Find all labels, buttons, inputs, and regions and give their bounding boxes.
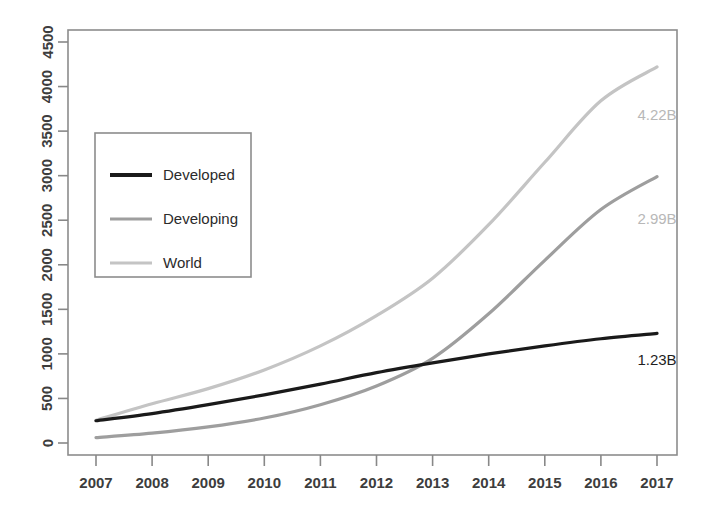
chart-container: 050010001500200025003000350040004500 200… bbox=[0, 0, 712, 519]
x-axis-tick-label: 2008 bbox=[135, 474, 168, 491]
y-axis-tick-label: 4000 bbox=[39, 70, 56, 103]
y-axis-tick-label: 3500 bbox=[39, 114, 56, 147]
x-axis-tick-label: 2007 bbox=[79, 474, 112, 491]
data-annotations: 4.22B2.99B1.23B bbox=[637, 106, 676, 368]
x-axis-tick-label: 2009 bbox=[192, 474, 225, 491]
y-axis-tick-label: 1500 bbox=[39, 293, 56, 326]
y-axis-tick-label: 3000 bbox=[39, 159, 56, 192]
x-axis: 2007200820092010201120122013201420152016… bbox=[79, 455, 673, 491]
y-axis-tick-label: 2000 bbox=[39, 248, 56, 281]
x-axis-tick-label: 2013 bbox=[416, 474, 449, 491]
legend[interactable]: DevelopedDevelopingWorld bbox=[95, 133, 251, 277]
y-axis-tick-label: 2500 bbox=[39, 204, 56, 237]
x-axis-tick-label: 2015 bbox=[528, 474, 561, 491]
y-axis-tick-label: 0 bbox=[39, 439, 56, 447]
x-axis-tick-label: 2014 bbox=[472, 474, 506, 491]
x-axis-tick-label: 2016 bbox=[584, 474, 617, 491]
line-chart: 050010001500200025003000350040004500 200… bbox=[0, 0, 712, 519]
x-axis-tick-label: 2010 bbox=[248, 474, 281, 491]
legend-label-world[interactable]: World bbox=[163, 254, 202, 271]
legend-label-developed[interactable]: Developed bbox=[163, 166, 235, 183]
annotation-developing: 2.99B bbox=[637, 210, 676, 227]
series-line-developed bbox=[96, 333, 657, 420]
y-axis: 050010001500200025003000350040004500 bbox=[39, 25, 69, 447]
y-axis-tick-label: 4500 bbox=[39, 25, 56, 58]
annotation-world: 4.22B bbox=[637, 106, 676, 123]
x-axis-tick-label: 2012 bbox=[360, 474, 393, 491]
x-axis-tick-label: 2011 bbox=[304, 474, 337, 491]
y-axis-tick-label: 1000 bbox=[39, 337, 56, 370]
x-axis-tick-label: 2017 bbox=[640, 474, 673, 491]
annotation-developed: 1.23B bbox=[637, 351, 676, 368]
legend-label-developing[interactable]: Developing bbox=[163, 210, 238, 227]
y-axis-tick-label: 500 bbox=[39, 386, 56, 411]
